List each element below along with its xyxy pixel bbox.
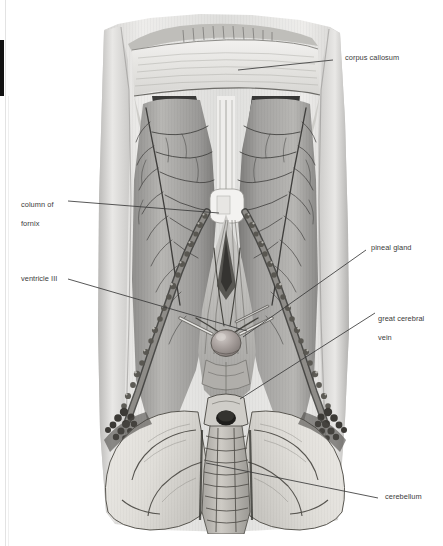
label-corpus-callosum: corpus callosum	[345, 53, 399, 62]
page-edge-rule	[5, 0, 6, 546]
label-cerebellum: cerebellum	[385, 492, 422, 501]
label-column-of-fornix-line2: fornix	[21, 219, 91, 228]
label-great-cerebral-vein: great cerebral vein	[378, 305, 442, 351]
label-pineal-gland: pineal gland	[371, 243, 411, 252]
page-edge-rule-secondary	[8, 96, 9, 546]
label-ventricle-iii: ventricle III	[21, 274, 91, 283]
label-great-cerebral-vein-line1: great cerebral	[378, 314, 442, 323]
pineal-gland	[211, 330, 241, 357]
label-column-of-fornix-line1: column of	[21, 200, 91, 209]
brain-dissection-illustration	[0, 0, 443, 546]
label-great-cerebral-vein-line2: vein	[378, 333, 442, 342]
cerebellar-vermis	[202, 426, 250, 534]
illustration-page: corpus callosum column of fornix ventric…	[0, 0, 443, 546]
label-column-of-fornix: column of fornix	[21, 191, 91, 237]
scan-edge-black-bar	[0, 40, 4, 96]
